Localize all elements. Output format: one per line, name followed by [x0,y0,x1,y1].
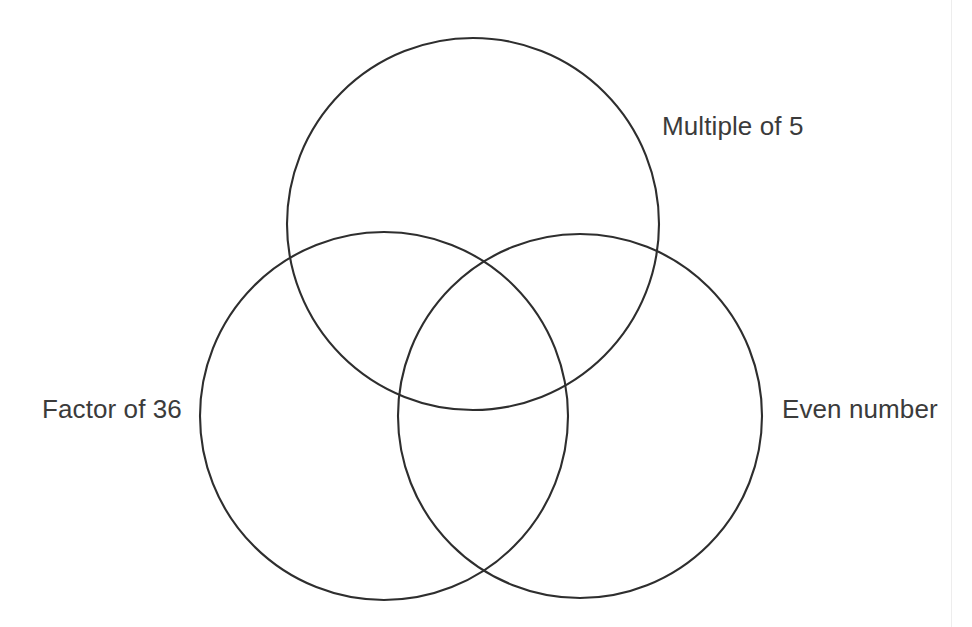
venn-circle-factor-of-36[interactable] [200,232,568,600]
venn-label-even-number: Even number [782,396,938,422]
venn-label-factor-of-36: Factor of 36 [42,396,182,422]
venn-circle-multiple-of-5[interactable] [287,38,659,410]
venn-diagram-canvas [0,0,972,627]
venn-diagram-page: Multiple of 5 Factor of 36 Even number [0,0,972,627]
venn-label-multiple-of-5: Multiple of 5 [662,113,803,139]
venn-circle-even-number[interactable] [398,234,762,598]
